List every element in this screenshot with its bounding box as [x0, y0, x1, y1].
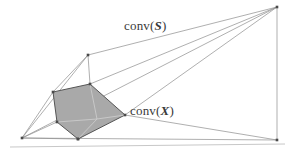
label-conv-s-variable: S: [155, 18, 162, 33]
convex-hull-figure: conv(S) conv(X): [0, 0, 292, 149]
label-conv-s: conv(S): [124, 18, 167, 34]
inner-hull-polygon: [53, 84, 125, 139]
vertex-point-5: [52, 91, 55, 94]
hull-edge-7: [90, 7, 277, 84]
label-conv-s-suffix: ): [162, 18, 167, 33]
vertex-point-0: [21, 137, 24, 140]
label-conv-x-suffix: ): [169, 103, 174, 118]
vertex-point-6: [89, 83, 92, 86]
baseline-rule: [10, 144, 285, 147]
baseline-group: [10, 144, 285, 147]
label-conv-s-prefix: conv(: [124, 18, 155, 33]
hull-edge-1: [88, 7, 277, 55]
hull-edge-5: [88, 55, 90, 84]
vertex-point-7: [124, 114, 127, 117]
vertex-point-8: [77, 138, 80, 141]
inner-hull-fill: [53, 84, 125, 139]
label-conv-x: conv(X): [130, 103, 174, 119]
vertex-point-3: [276, 139, 279, 142]
label-conv-x-prefix: conv(: [130, 103, 161, 118]
vertex-point-2: [276, 6, 279, 9]
vertex-point-1: [87, 54, 90, 57]
vertex-point-9: [56, 121, 59, 124]
